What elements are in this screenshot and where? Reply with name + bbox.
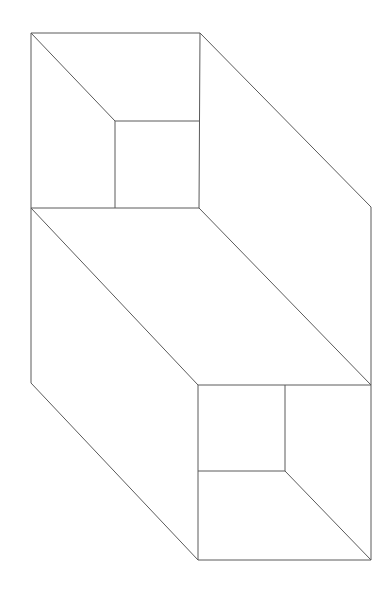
stepped-block-figure: [0, 0, 388, 590]
figure-background: [0, 0, 388, 590]
